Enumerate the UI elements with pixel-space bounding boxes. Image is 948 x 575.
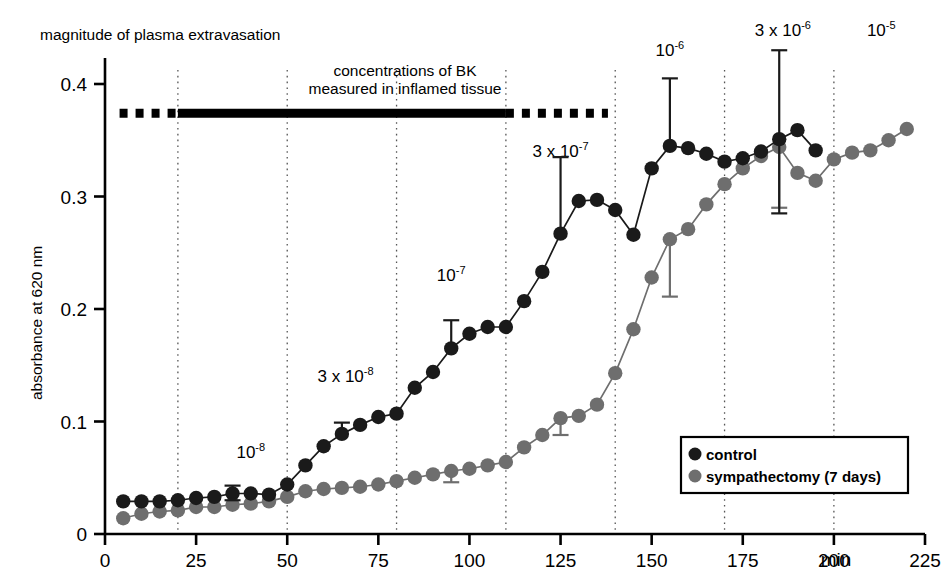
data-point — [116, 511, 130, 525]
data-point — [644, 270, 658, 284]
data-point — [371, 410, 385, 424]
data-point — [408, 471, 422, 485]
data-point — [900, 122, 914, 136]
data-point — [316, 482, 330, 496]
x-tick-label-9: 225 — [909, 550, 941, 571]
data-point — [863, 143, 877, 157]
y-tick-label-4: 0.4 — [61, 74, 88, 95]
data-point — [444, 341, 458, 355]
data-point — [389, 406, 403, 420]
legend-marker-1 — [689, 470, 702, 483]
data-point — [316, 439, 330, 453]
y-tick-label-0: 0 — [76, 524, 87, 545]
x-tick-label-1: 25 — [186, 550, 207, 571]
data-point — [845, 145, 859, 159]
figure-root: magnitude of plasma extravasation absorb… — [0, 0, 948, 575]
data-point — [480, 458, 494, 472]
concentration-bar-label-line1: concentrations of BK — [333, 62, 477, 79]
data-point — [608, 366, 622, 380]
data-point — [717, 177, 731, 191]
data-point — [608, 203, 622, 217]
x-tick-label-0: 0 — [100, 550, 111, 571]
data-point — [389, 474, 403, 488]
data-point — [790, 123, 804, 137]
data-point — [353, 418, 367, 432]
x-axis-unit-label: min — [821, 549, 852, 570]
data-point — [754, 144, 768, 158]
data-point — [280, 490, 294, 504]
data-point — [626, 228, 640, 242]
data-point — [244, 486, 258, 500]
data-point — [663, 232, 677, 246]
x-tick-label-6: 150 — [636, 550, 668, 571]
data-point — [480, 320, 494, 334]
data-point — [189, 491, 203, 505]
data-point — [553, 411, 567, 425]
data-point — [298, 484, 312, 498]
data-point — [881, 133, 895, 147]
legend[interactable]: controlsympathectomy (7 days) — [681, 437, 908, 493]
data-point — [335, 481, 349, 495]
data-point — [827, 152, 841, 166]
data-point — [499, 455, 513, 469]
data-point — [134, 507, 148, 521]
plasma-extravasation-chart: magnitude of plasma extravasation absorb… — [0, 0, 948, 575]
data-point — [171, 493, 185, 507]
legend-label-0: control — [706, 446, 757, 463]
data-point — [681, 141, 695, 155]
data-point — [371, 477, 385, 491]
data-point — [736, 151, 750, 165]
data-point — [335, 427, 349, 441]
x-tick-label-4: 100 — [454, 550, 486, 571]
data-point — [790, 166, 804, 180]
data-point — [152, 494, 166, 508]
y-tick-label-1: 0.1 — [61, 412, 87, 433]
data-point — [462, 462, 476, 476]
data-point — [408, 381, 422, 395]
data-point — [572, 409, 586, 423]
data-point — [517, 294, 531, 308]
data-point — [225, 486, 239, 500]
data-point — [772, 132, 786, 146]
data-point — [663, 139, 677, 153]
data-point — [808, 174, 822, 188]
data-point — [499, 320, 513, 334]
x-tick-label-7: 175 — [727, 550, 759, 571]
x-tick-label-2: 50 — [277, 550, 298, 571]
data-point — [717, 154, 731, 168]
y-axis-label: absorbance at 620 nm — [28, 246, 45, 400]
data-point — [644, 161, 658, 175]
data-point — [207, 490, 221, 504]
data-point — [426, 467, 440, 481]
legend-marker-0 — [689, 448, 702, 461]
data-point — [681, 222, 695, 236]
legend-label-1: sympathectomy (7 days) — [706, 468, 881, 485]
x-tick-label-5: 125 — [545, 550, 577, 571]
concentration-bar-label-line2: measured in inflamed tissue — [309, 80, 502, 97]
y-tick-label-2: 0.2 — [61, 299, 87, 320]
data-point — [699, 197, 713, 211]
y-tick-label-3: 0.3 — [61, 187, 87, 208]
data-point — [280, 477, 294, 491]
data-point — [353, 480, 367, 494]
data-point — [553, 226, 567, 240]
data-point — [134, 494, 148, 508]
x-tick-label-3: 75 — [368, 550, 389, 571]
data-point — [116, 494, 130, 508]
data-point — [517, 440, 531, 454]
data-point — [699, 147, 713, 161]
data-point — [626, 322, 640, 336]
data-point — [572, 194, 586, 208]
data-point — [535, 265, 549, 279]
data-point — [535, 428, 549, 442]
data-point — [590, 193, 604, 207]
data-point — [444, 464, 458, 478]
data-point — [590, 397, 604, 411]
data-point — [262, 487, 276, 501]
data-point — [808, 143, 822, 157]
page-title: magnitude of plasma extravasation — [40, 26, 280, 43]
data-point — [462, 327, 476, 341]
data-point — [426, 365, 440, 379]
data-point — [298, 458, 312, 472]
